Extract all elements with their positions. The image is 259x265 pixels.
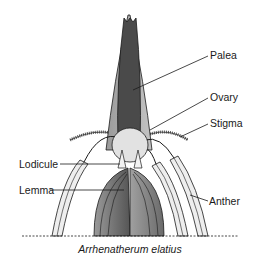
label-ovary: Ovary: [210, 91, 239, 103]
anther-left: [52, 160, 88, 236]
leader-stigma: [180, 124, 208, 137]
leader-palea: [133, 56, 208, 90]
label-anther: Anther: [209, 195, 240, 207]
label-palea: Palea: [210, 49, 237, 61]
leader-ovary: [150, 98, 208, 130]
lemma: [94, 168, 164, 236]
label-lemma: Lemma: [19, 184, 54, 196]
ovary: [112, 128, 148, 162]
label-stigma: Stigma: [210, 117, 243, 129]
floret-diagram: Palea Ovary Stigma Lodicule Lemma Anther…: [0, 0, 259, 265]
label-lodicule: Lodicule: [19, 158, 58, 170]
species-caption: Arrhenatherum elatius: [77, 243, 182, 255]
